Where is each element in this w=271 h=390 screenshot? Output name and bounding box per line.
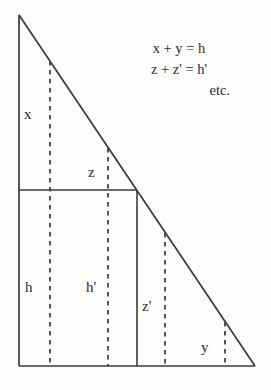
geometry-figure: x + y = h z + z' = h' etc. x z h h' z' y xyxy=(0,0,271,390)
equation-line-3: etc. xyxy=(120,80,238,101)
segment-label-z: z xyxy=(88,165,95,180)
segment-label-z-prime: z' xyxy=(142,299,151,314)
segment-label-h: h xyxy=(25,280,33,295)
segment-label-h-prime: h' xyxy=(86,280,96,295)
equation-line-1: x + y = h xyxy=(120,38,238,59)
segment-label-x: x xyxy=(24,107,32,122)
segment-label-y: y xyxy=(201,340,209,355)
equation-block: x + y = h z + z' = h' etc. xyxy=(120,38,238,101)
equation-line-2: z + z' = h' xyxy=(120,59,238,80)
